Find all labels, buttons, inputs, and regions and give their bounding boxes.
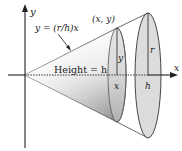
y-axis-arrow-icon: [22, 4, 28, 12]
base-position-label: h: [145, 81, 151, 91]
base-radius-label: r: [150, 45, 155, 55]
height-label: Height = h: [54, 64, 107, 75]
line-label-pointer: [58, 34, 71, 51]
x-axis-label: x: [174, 63, 179, 73]
pointer-arrow-icon: [66, 45, 71, 51]
slice-radius-label: y: [117, 53, 124, 63]
line-equation-label: y = (r/h)x: [34, 23, 79, 33]
point-label: (x, y): [92, 14, 115, 24]
slice-position-label: x: [114, 81, 119, 91]
cone-diagram: y x y = (r/h)x (x, y) Height = h y x r h: [0, 0, 182, 151]
y-axis-label: y: [29, 6, 36, 17]
